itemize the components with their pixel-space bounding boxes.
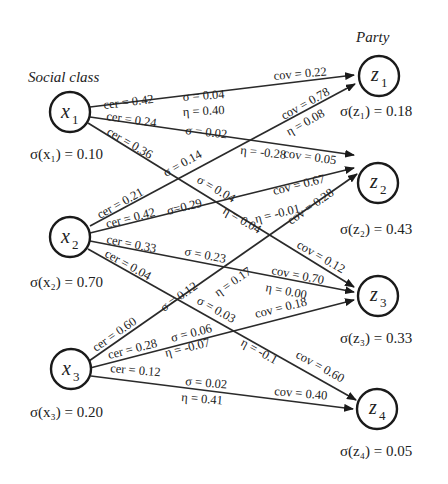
svg-text:1: 1	[381, 75, 388, 90]
sigma-z1: σ(z₁) = 0.18	[340, 103, 412, 120]
svg-text:4: 4	[379, 408, 386, 423]
sigma-x3: σ(x₃) = 0.20	[30, 404, 103, 421]
svg-text:3: 3	[380, 295, 387, 310]
sigma-x1: σ(x₁) = 0.10	[30, 146, 103, 163]
svg-text:3: 3	[73, 369, 80, 384]
node-z3: z 3	[358, 276, 398, 316]
edge-x3-z4-eta: η = 0.41	[181, 390, 224, 408]
svg-text:x: x	[60, 100, 70, 122]
edge-x2-z1-sigma: σ = 0.14	[161, 147, 205, 180]
edge-x1-z1-eta: η = 0.40	[182, 103, 224, 119]
svg-text:2: 2	[72, 237, 79, 252]
social-class-title: Social class	[28, 69, 99, 85]
node-z4: z 4	[357, 389, 397, 429]
edge-x1-z3-cer: cer = 0.36	[105, 124, 156, 161]
edge-x2-z2-sigma: σ=0.29	[165, 196, 203, 218]
node-x2: x 2	[50, 217, 90, 257]
svg-text:z: z	[369, 170, 378, 192]
node-z2: z 2	[358, 163, 398, 203]
svg-text:1: 1	[72, 112, 79, 127]
edge-x1-z1-sigma: σ = 0.04	[182, 87, 226, 104]
edge-x1-z1-cov: cov = 0.22	[273, 64, 327, 83]
node-x1: x 1	[50, 92, 90, 132]
svg-text:x: x	[60, 225, 70, 247]
edge-x2-z4-eta: η = -0.1	[239, 335, 280, 366]
sigma-z4: σ(z₄) = 0.05	[340, 443, 412, 460]
sigma-x2: σ(x₂) = 0.70	[30, 274, 103, 291]
sigma-z2: σ(z₂) = 0.43	[340, 221, 412, 238]
svg-text:z: z	[370, 63, 379, 85]
svg-text:z: z	[369, 283, 378, 305]
sigma-z3: σ(z₃) = 0.33	[340, 330, 412, 347]
node-x3: x 3	[51, 349, 91, 389]
edge-x3-z3-cov: cov = 0.18	[253, 294, 308, 320]
node-z1: z 1	[359, 56, 399, 96]
edge-x3-z4-cer: cer = 0.12	[110, 361, 161, 379]
causal-diagram: Social class Party cer = 0.42 σ = 0.04 η…	[0, 0, 448, 484]
edge-x1-z2-cov: cov = 0.05	[283, 146, 338, 167]
svg-text:x: x	[61, 357, 71, 379]
edge-labels: cer = 0.42 σ = 0.04 η = 0.40 cov = 0.22 …	[90, 64, 348, 407]
svg-text:z: z	[368, 396, 377, 418]
svg-text:2: 2	[380, 182, 387, 197]
edge-x1-z2-eta: η = -0.28	[240, 143, 287, 162]
party-title: Party	[355, 29, 390, 45]
edge-x1-z2-sigma: σ = 0.02	[185, 123, 228, 141]
